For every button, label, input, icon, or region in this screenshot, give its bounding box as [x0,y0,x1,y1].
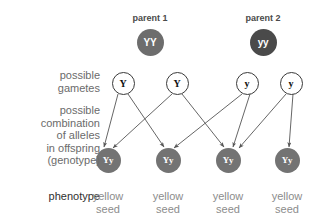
genotype-row-label-line4: in offspring [0,142,100,155]
genotype-row-label-line2: combination [0,117,100,130]
phenotype-cell-3-line1: yellow [213,190,244,203]
phenotype-cell-1: yellow seed [93,190,124,215]
gamete-2-circle: Y [166,72,189,95]
connector-arrow-6 [233,94,250,147]
genotype-row-label: possible combination of alleles in offsp… [0,104,100,167]
parent-2-genotype-circle: yy [250,29,277,56]
connector-arrow-3 [113,94,172,148]
phenotype-row-label: phenotype [10,190,100,203]
parent-2-caption: parent 2 [245,13,280,23]
phenotype-cell-4-line1: yellow [272,190,303,203]
gamete-1-circle: Y [112,72,135,95]
phenotype-cell-1-line1: yellow [93,190,124,203]
phenotype-cell-1-line2: seed [93,203,124,216]
phenotype-cell-2-line2: seed [153,203,184,216]
gametes-row-label-line1: possible [12,69,100,82]
connector-arrow-5 [174,94,242,148]
parent-1-genotype-circle: YY [137,29,164,56]
connector-arrow-2 [128,94,164,147]
genotype-row-label-line3: of alleles [0,129,100,142]
offspring-4-genotype-circle: Yy [275,148,300,173]
gametes-row-label-line2: gametes [12,82,100,95]
phenotype-cell-3-line2: seed [213,203,244,216]
connector-arrow-1 [104,94,118,147]
phenotype-cell-2-line1: yellow [153,190,184,203]
gametes-row-label: possible gametes [12,69,100,94]
phenotype-cell-3: yellow seed [213,190,244,215]
gamete-to-offspring-arrows [104,94,293,148]
connector-arrow-7 [239,94,286,148]
phenotype-cell-4: yellow seed [272,190,303,215]
gamete-3-circle: y [236,72,259,95]
connector-arrow-8 [289,94,293,147]
offspring-3-genotype-circle: Yy [216,148,241,173]
genotype-row-label-line5: (genotype) [0,154,100,167]
connector-arrow-4 [182,94,224,147]
genotype-row-label-line1: possible [0,104,100,117]
phenotype-cell-4-line2: seed [272,203,303,216]
gamete-4-circle: y [280,72,303,95]
parent-1-caption: parent 1 [132,13,167,23]
offspring-2-genotype-circle: Yy [156,148,181,173]
phenotype-cell-2: yellow seed [153,190,184,215]
punnett-cross-diagram: parent 1 parent 2 YY yy possible gametes… [0,0,323,221]
